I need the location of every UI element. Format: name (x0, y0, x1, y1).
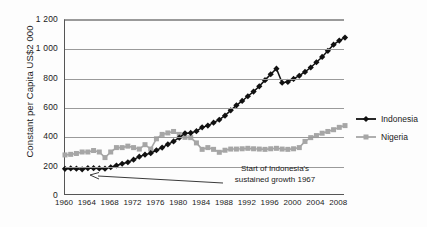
x-axis-tick-labels: 1960196419681972197619801984198819921996… (0, 198, 427, 214)
legend-item-indonesia[interactable]: Indonesia (355, 110, 418, 128)
legend-swatch-diamond-icon (355, 113, 377, 125)
x-axis-tick-label: 2008 (329, 198, 347, 207)
legend: IndonesiaNigeria (355, 110, 418, 146)
x-axis-tick-label: 1996 (261, 198, 279, 207)
x-axis-tick-label: 1968 (101, 198, 119, 207)
annotation-line-2: sustained growth 1967 (215, 175, 335, 186)
x-axis-tick-label: 1984 (192, 198, 210, 207)
chart-container: Constant per Capita US$2 000 02004006008… (0, 0, 427, 227)
legend-item-nigeria[interactable]: Nigeria (355, 128, 418, 146)
annotation-arrow-icon (88, 171, 223, 185)
y-axis-tick-labels: 02004006008001 0001 200 (18, 0, 58, 227)
x-axis-tick-label: 1992 (238, 198, 256, 207)
legend-label: Nigeria (381, 132, 408, 142)
x-axis-tick-label: 2000 (283, 198, 301, 207)
y-axis-tick-label: 600 (18, 102, 58, 112)
annotation-label: Start of Indonesia's sustained growth 19… (215, 164, 335, 185)
gridline (65, 137, 344, 138)
x-axis-tick-label: 1972 (123, 198, 141, 207)
x-axis-tick-label: 2004 (306, 198, 324, 207)
x-axis-tick-label: 1960 (55, 198, 73, 207)
y-axis-tick-label: 800 (18, 73, 58, 83)
gridline (65, 79, 344, 80)
y-axis-tick-label: 1 200 (18, 14, 58, 24)
gridline (65, 108, 344, 109)
y-axis-tick-label: 1 000 (18, 43, 58, 53)
x-axis-tick-label: 1976 (146, 198, 164, 207)
y-axis-tick-label: 400 (18, 131, 58, 141)
gridline (65, 20, 344, 21)
series-nigeria (63, 123, 348, 160)
y-axis-tick-label: 200 (18, 161, 58, 171)
annotation-line-1: Start of Indonesia's (215, 164, 335, 175)
series-indonesia (62, 35, 348, 173)
x-axis-tick-label: 1980 (169, 198, 187, 207)
gridline (65, 49, 344, 50)
x-axis-tick-label: 1964 (78, 198, 96, 207)
legend-swatch-square-icon (355, 131, 377, 143)
legend-label: Indonesia (381, 114, 418, 124)
x-axis-tick-label: 1988 (215, 198, 233, 207)
